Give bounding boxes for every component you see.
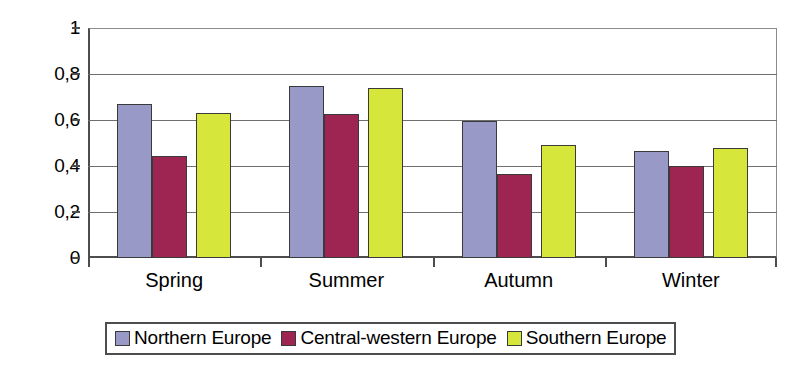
legend-label: Southern Europe bbox=[526, 328, 667, 348]
legend-item: Central-western Europe bbox=[281, 328, 496, 348]
y-axis-tick-mark bbox=[72, 211, 80, 213]
bar-group bbox=[433, 28, 605, 258]
bar bbox=[669, 166, 704, 258]
x-axis-tick-mark bbox=[433, 258, 435, 267]
y-axis-tick-label: 0 bbox=[10, 248, 80, 267]
bar bbox=[324, 114, 359, 258]
legend: Northern EuropeCentral-western EuropeSou… bbox=[105, 322, 676, 355]
bar bbox=[634, 151, 669, 258]
x-axis-tick-mark bbox=[775, 258, 777, 267]
y-axis-tick-label: 0,6 bbox=[10, 110, 80, 129]
bar-group bbox=[88, 28, 260, 258]
x-axis-tick-mark bbox=[260, 258, 262, 267]
bar bbox=[289, 86, 324, 259]
plot-area bbox=[88, 28, 777, 258]
y-axis-tick-mark bbox=[72, 27, 80, 29]
y-axis-tick-mark bbox=[72, 165, 80, 167]
legend-swatch-icon bbox=[115, 331, 130, 346]
y-axis-tick-label: 0,2 bbox=[10, 202, 80, 221]
x-axis-tick-mark bbox=[605, 258, 607, 267]
x-axis-tick-label: Summer bbox=[260, 268, 432, 292]
x-axis-tick-label: Autumn bbox=[433, 268, 605, 292]
y-axis-tick-label: 0,4 bbox=[10, 156, 80, 175]
bar-group bbox=[605, 28, 777, 258]
y-axis: 10,80,60,40,20 bbox=[0, 0, 80, 368]
bar bbox=[196, 113, 231, 258]
bar bbox=[152, 156, 187, 258]
legend-swatch-icon bbox=[281, 331, 296, 346]
bar bbox=[497, 174, 532, 258]
legend-item: Southern Europe bbox=[507, 328, 667, 348]
bar-group bbox=[260, 28, 432, 258]
legend-label: Central-western Europe bbox=[300, 328, 496, 348]
x-axis-tick-label: Winter bbox=[605, 268, 777, 292]
x-axis-ticks bbox=[88, 258, 777, 268]
bar bbox=[117, 104, 152, 258]
legend-item: Northern Europe bbox=[115, 328, 271, 348]
legend-label: Northern Europe bbox=[134, 328, 271, 348]
y-axis-tick-mark bbox=[72, 73, 80, 75]
legend-swatch-icon bbox=[507, 331, 522, 346]
y-axis-tick-mark bbox=[72, 119, 80, 121]
bar bbox=[368, 88, 403, 258]
x-axis-tick-label: Spring bbox=[88, 268, 260, 292]
y-axis-tick-mark bbox=[72, 257, 80, 259]
x-axis: SpringSummerAutumnWinter bbox=[88, 268, 777, 298]
bar-chart: 10,80,60,40,20 SpringSummerAutumnWinter … bbox=[0, 0, 801, 368]
x-axis-tick-mark bbox=[88, 258, 90, 267]
bar bbox=[713, 148, 748, 258]
y-axis-tick-label: 0,8 bbox=[10, 64, 80, 83]
bar bbox=[541, 145, 576, 258]
bar bbox=[462, 121, 497, 258]
y-axis-tick-label: 1 bbox=[10, 18, 80, 37]
